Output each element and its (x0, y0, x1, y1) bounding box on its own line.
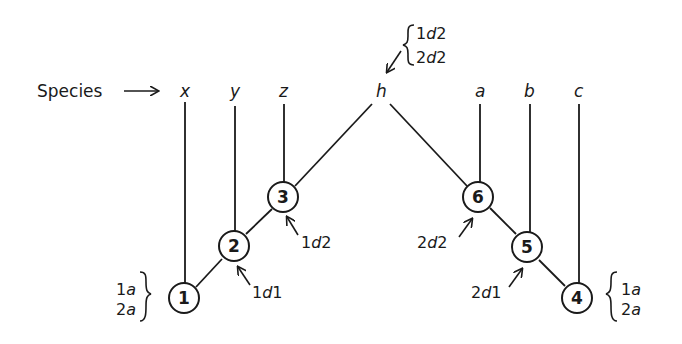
edge-2-3 (246, 209, 272, 234)
node-4-annotation-line1: 1a (621, 280, 641, 299)
node-6: 6 (463, 182, 493, 212)
node-1-brace-icon (140, 272, 151, 321)
edge-3-h (295, 104, 372, 186)
h-annotation-line2: 2d2 (416, 48, 447, 67)
species-z: z (278, 81, 289, 101)
node-3-annotation-arrow-icon (287, 217, 298, 235)
h-annotation-line1: 1d2 (416, 24, 447, 43)
species-h: h (376, 81, 387, 101)
node-6-label: 6 (472, 187, 484, 207)
h-annotation-arrow-icon (387, 51, 401, 72)
node-4-brace-icon (606, 272, 617, 321)
node-4-label: 4 (571, 288, 583, 308)
node-2-annotation: 1d1 (252, 283, 283, 302)
species-y: y (229, 81, 241, 101)
edge-h-6 (390, 104, 467, 186)
node-5: 5 (512, 232, 542, 262)
node-2: 2 (219, 231, 249, 261)
node-3-label: 3 (277, 187, 289, 207)
node-1-annotation-line2: 2a (116, 300, 136, 319)
species-a: a (475, 81, 485, 101)
species-b: b (524, 81, 535, 101)
node-5-label: 5 (521, 237, 533, 257)
edge-5-4 (539, 260, 565, 286)
node-2-annotation-arrow-icon (238, 267, 250, 285)
node-6-annotation-arrow-icon (459, 219, 472, 237)
node-5-annotation-arrow-icon (509, 269, 522, 287)
h-brace-icon (403, 25, 414, 65)
node-5-annotation: 2d1 (471, 283, 502, 302)
node-3-annotation: 1d2 (301, 233, 332, 252)
node-1-annotation-line1: 1a (116, 280, 136, 299)
species-label: Species (37, 81, 103, 101)
node-4: 4 (562, 283, 592, 313)
node-1: 1 (169, 283, 199, 313)
node-4-annotation-line2: 2a (621, 300, 641, 319)
node-2-label: 2 (228, 236, 240, 256)
edge-6-5 (490, 208, 516, 234)
edge-1-2 (196, 259, 222, 287)
phylogenetic-tree-diagram: Species x y z h a b c 1 2 3 4 5 6 (0, 0, 682, 344)
node-6-annotation: 2d2 (417, 233, 448, 252)
node-3: 3 (268, 182, 298, 212)
node-1-label: 1 (178, 288, 190, 308)
species-c: c (574, 81, 584, 101)
species-x: x (179, 81, 191, 101)
